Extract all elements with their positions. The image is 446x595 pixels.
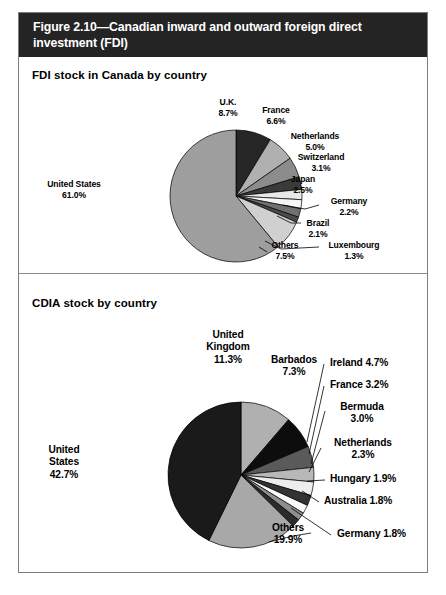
slice-label-uk: U.K. 8.7% [207, 97, 249, 118]
slice-label-switzerland: Switzerland 3.1% [287, 152, 355, 173]
slice-label-france: France 6.6% [253, 105, 299, 126]
slice-label-luxembourg: Luxembourg 1.3% [321, 240, 387, 261]
slice-label-netherlands: Netherlands 5.0% [281, 131, 349, 152]
slice-label-barbados: Barbados 7.3% [263, 354, 325, 379]
slice-label-united-states: United States 61.0% [37, 179, 111, 200]
slice-label-germany: Germany 1.8% [337, 528, 406, 540]
slice-label-brazil: Brazil 2.1% [297, 218, 339, 239]
slice-label-others: Others 7.5% [263, 240, 307, 261]
slice-label-netherlands: Netherlands 2.3% [325, 437, 401, 462]
panel-cdia-stock: CDIA stock by country United Kingdom 11.… [19, 274, 427, 573]
slice-label-bermuda: Bermuda 3.0% [331, 401, 393, 426]
slice-label-germany: Germany 2.2% [321, 196, 377, 217]
slice-label-united-kingdom: United Kingdom 11.3% [195, 329, 261, 366]
slice-label-others: Others 19.9% [261, 522, 315, 547]
leader-line [311, 411, 325, 464]
slice-label-france: France 3.2% [330, 379, 388, 391]
slice-label-japan: Japan 2.5% [281, 174, 325, 195]
slice-label-united-states: United States 42.7% [33, 444, 95, 481]
slice-label-hungary: Hungary 1.9% [330, 473, 396, 485]
slice-label-ireland: Ireland 4.7% [330, 357, 388, 369]
slice-label-australia: Australia 1.8% [324, 495, 392, 507]
page-title: Figure 2.10—Canadian inward and outward … [33, 20, 415, 51]
panel-fdi-stock-in-canada: FDI stock in Canada by country U.K. 8.7%… [19, 57, 427, 274]
figure-frame: Figure 2.10—Canadian inward and outward … [18, 12, 428, 573]
figure-title-bar: Figure 2.10—Canadian inward and outward … [19, 13, 427, 57]
